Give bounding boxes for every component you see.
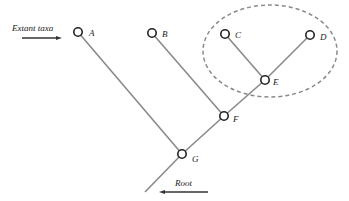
node-label-F: F bbox=[232, 114, 239, 124]
branch-F-G bbox=[182, 116, 224, 154]
node-G bbox=[178, 150, 186, 158]
node-D bbox=[306, 31, 314, 39]
branch-D-E bbox=[265, 35, 310, 80]
root-caption: Root bbox=[174, 178, 192, 188]
nodes bbox=[74, 28, 314, 158]
highlighted-clade-outline bbox=[203, 5, 337, 97]
node-label-C: C bbox=[235, 30, 242, 40]
root-arrow bbox=[159, 190, 208, 194]
node-E bbox=[261, 76, 269, 84]
node-label-G: G bbox=[192, 154, 199, 164]
node-label-B: B bbox=[162, 29, 168, 39]
extant-taxa-caption: Extant taxa bbox=[11, 23, 54, 33]
branches bbox=[78, 32, 310, 192]
extant-taxa-arrow bbox=[22, 36, 62, 40]
node-label-E: E bbox=[272, 77, 279, 87]
node-label-D: D bbox=[319, 32, 327, 42]
branch-E-F bbox=[224, 80, 265, 116]
phylogenetic-tree-diagram: A B C D E F G Extant taxa Root bbox=[0, 0, 349, 201]
node-label-A: A bbox=[88, 28, 95, 38]
branch-C-E bbox=[225, 34, 265, 80]
node-F bbox=[220, 112, 228, 120]
node-B bbox=[148, 29, 156, 37]
branch-B-F bbox=[152, 33, 224, 116]
node-A bbox=[74, 28, 82, 36]
node-C bbox=[221, 30, 229, 38]
